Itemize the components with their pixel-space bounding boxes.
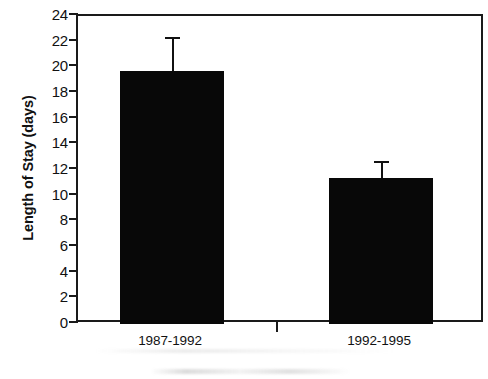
x-axis-tick <box>276 322 278 332</box>
y-axis-tick-label: 14 <box>38 134 68 151</box>
x-axis-category-label: 1992-1995 <box>299 333 459 348</box>
y-axis-tick-label: 4 <box>38 262 68 279</box>
y-axis-tick-label: 0 <box>38 314 68 331</box>
y-axis-tick-label: 16 <box>38 108 68 125</box>
error-bar-cap <box>165 37 180 39</box>
y-axis-tick-label: 8 <box>38 211 68 228</box>
y-axis-tick-label: 10 <box>38 185 68 202</box>
scan-artifact-upper <box>95 349 395 353</box>
y-axis-tick-label: 24 <box>38 6 68 23</box>
bar <box>329 178 433 324</box>
y-axis-tick-label: 6 <box>38 237 68 254</box>
scan-artifact-lower <box>150 369 350 374</box>
error-bar-cap <box>374 161 389 163</box>
y-axis-tick-label: 18 <box>38 83 68 100</box>
bar-chart-figure: Length of Stay (days) 024681012141618202… <box>0 0 488 379</box>
plot-area <box>76 14 483 322</box>
y-axis-tick-label: 22 <box>38 31 68 48</box>
y-axis-tick-label: 20 <box>38 57 68 74</box>
error-bar-stem <box>381 161 383 178</box>
x-axis-category-label: 1987-1992 <box>90 333 250 348</box>
y-axis-tick-label: 2 <box>38 288 68 305</box>
error-bar-stem <box>172 37 174 72</box>
y-axis-tick-label: 12 <box>38 160 68 177</box>
y-axis-title: Length of Stay (days) <box>20 48 36 288</box>
bar <box>120 71 224 324</box>
